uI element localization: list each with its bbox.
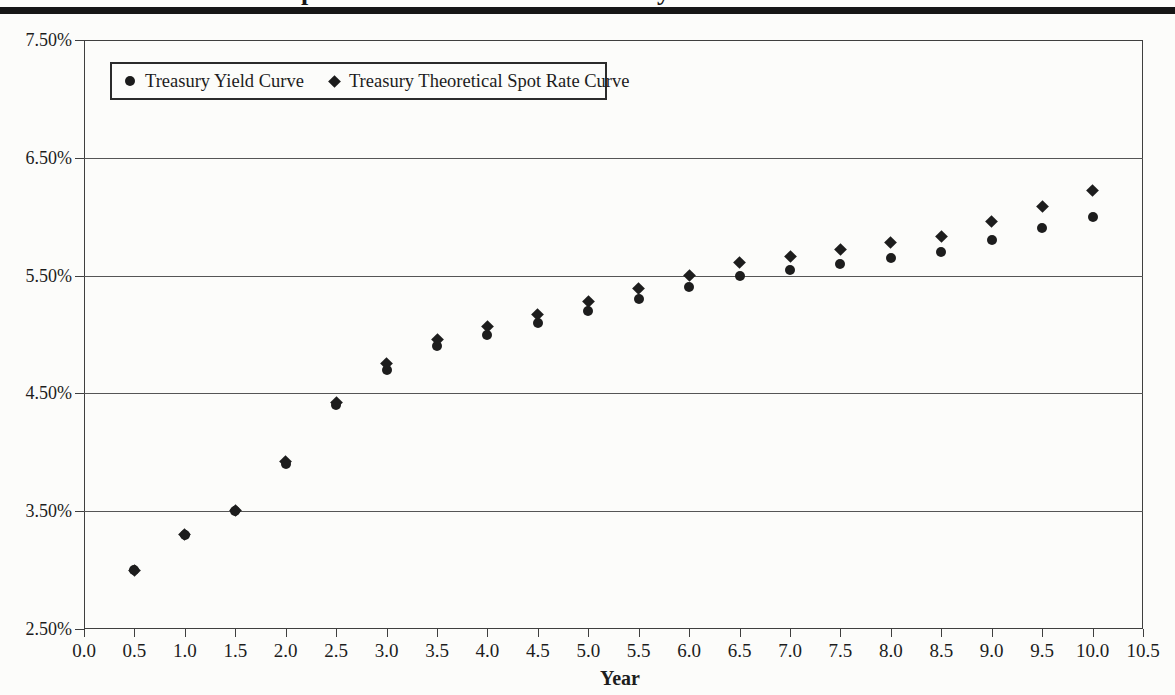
x-tick-label-3.5: 3.5 [409,640,465,662]
x-tick-label-10.5: 10.5 [1115,640,1171,662]
x-tick-label-0.0: 0.0 [56,640,112,662]
x-tick-2.5 [336,629,337,637]
y-tick-7.50% [75,40,84,41]
data-point-yield-6.5 [735,271,745,281]
diamond-marker-icon [328,75,341,88]
x-axis-title: Year [560,667,680,690]
x-tick-label-4.5: 4.5 [510,640,566,662]
y-tick-5.50% [75,276,84,277]
x-tick-9.5 [1042,629,1043,637]
x-tick-6.5 [740,629,741,637]
x-tick-4.0 [487,629,488,637]
gridline-6.50% [84,158,1143,159]
title-descender-fragment-p: p [301,0,315,5]
x-tick-5.0 [588,629,589,637]
x-tick-8.0 [891,629,892,637]
x-tick-1.0 [185,629,186,637]
x-tick-10.5 [1143,629,1144,637]
x-tick-6.0 [689,629,690,637]
x-tick-label-3.0: 3.0 [359,640,415,662]
x-tick-label-4.0: 4.0 [459,640,515,662]
x-tick-7.0 [790,629,791,637]
x-tick-3.0 [387,629,388,637]
x-tick-label-10.0: 10.0 [1065,640,1121,662]
data-point-yield-10 [1088,212,1098,222]
x-tick-label-5.0: 5.0 [560,640,616,662]
legend-item-spot-rate-curve: Treasury Theoretical Spot Rate Curve [330,71,630,92]
data-point-yield-8 [886,253,896,263]
legend: Treasury Yield Curve Treasury Theoretica… [110,62,607,100]
x-tick-2.0 [286,629,287,637]
y-tick-label-2.50%: 2.50% [2,618,72,640]
y-tick-label-3.50%: 3.50% [2,500,72,522]
x-tick-label-1.5: 1.5 [207,640,263,662]
legend-label-spot-rate-curve: Treasury Theoretical Spot Rate Curve [349,71,630,92]
y-tick-4.50% [75,393,84,394]
data-point-yield-9 [987,235,997,245]
x-tick-7.5 [840,629,841,637]
cropped-title: p y [0,0,1175,6]
x-tick-label-9.0: 9.0 [964,640,1020,662]
x-tick-label-7.0: 7.0 [762,640,818,662]
x-tick-label-8.5: 8.5 [913,640,969,662]
y-tick-2.50% [75,629,84,630]
y-tick-6.50% [75,158,84,159]
x-tick-9.0 [992,629,993,637]
x-tick-label-2.0: 2.0 [258,640,314,662]
x-tick-label-6.0: 6.0 [661,640,717,662]
x-tick-label-9.5: 9.5 [1014,640,1070,662]
data-point-yield-5.5 [634,294,644,304]
x-tick-label-0.5: 0.5 [106,640,162,662]
gridline-4.50% [84,393,1143,394]
x-tick-label-1.0: 1.0 [157,640,213,662]
y-tick-label-4.50%: 4.50% [2,382,72,404]
x-tick-10.0 [1093,629,1094,637]
x-tick-label-8.0: 8.0 [863,640,919,662]
gridline-3.50% [84,511,1143,512]
gridline-5.50% [84,276,1143,277]
y-tick-label-7.50%: 7.50% [2,29,72,51]
circle-marker-icon [125,76,135,86]
y-tick-3.50% [75,511,84,512]
data-point-yield-7 [785,265,795,275]
legend-item-yield-curve: Treasury Yield Curve [125,71,304,92]
x-tick-5.5 [639,629,640,637]
x-tick-4.5 [538,629,539,637]
title-descender-fragment-y: y [657,0,670,5]
x-tick-label-7.5: 7.5 [812,640,868,662]
x-tick-label-6.5: 6.5 [712,640,768,662]
x-tick-0.5 [134,629,135,637]
x-tick-label-2.5: 2.5 [308,640,364,662]
x-tick-8.5 [941,629,942,637]
y-tick-label-5.50%: 5.50% [2,265,72,287]
x-tick-label-5.5: 5.5 [611,640,667,662]
y-tick-label-6.50%: 6.50% [2,147,72,169]
legend-label-yield-curve: Treasury Yield Curve [145,71,304,92]
title-underline-rule [0,7,1175,14]
x-tick-1.5 [235,629,236,637]
x-tick-3.5 [437,629,438,637]
plot-area [84,40,1143,629]
x-tick-0.0 [84,629,85,637]
